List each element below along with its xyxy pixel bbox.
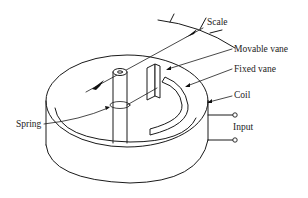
- label-coil: Coil: [234, 90, 251, 100]
- pointer-tip-arrow: [184, 29, 197, 38]
- moving-iron-instrument-diagram: Scale Movable vane Fixed vane Coil Sprin…: [0, 0, 308, 198]
- pointer: [86, 28, 203, 92]
- label-input: Input: [233, 122, 253, 132]
- label-movable-vane: Movable vane: [234, 44, 288, 54]
- spindle: [110, 69, 130, 144]
- movable-vane: [127, 64, 160, 105]
- label-fixed-vane: Fixed vane: [234, 64, 276, 74]
- input-terminal-bottom[interactable]: [233, 138, 237, 142]
- pointer-tail-arrow: [92, 80, 104, 90]
- scale-tick: [200, 18, 206, 29]
- scale-tick: [210, 30, 222, 33]
- scale-tick: [170, 14, 174, 22]
- label-scale: Scale: [207, 17, 228, 27]
- input-terminal-top[interactable]: [233, 113, 237, 117]
- label-spring: Spring: [16, 119, 42, 129]
